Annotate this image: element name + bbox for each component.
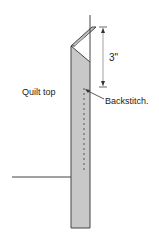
arrow-up-icon [101,28,105,33]
backstitch-label: Backstitch. [105,96,149,106]
dimension-label: 3" [109,52,118,63]
binding-strip [71,46,90,228]
quilt-top-label: Quilt top [22,87,56,97]
binding-diagram [0,0,159,239]
arrow-down-icon [101,81,105,86]
